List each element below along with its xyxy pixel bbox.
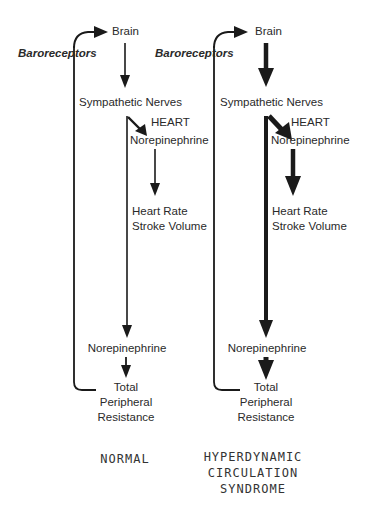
- heart-label: HEART: [291, 116, 330, 128]
- sympathetic-nerves-label: Sympathetic Nerves: [220, 96, 323, 108]
- stroke-volume-label: Stroke Volume: [132, 220, 207, 232]
- heart-label: HEART: [151, 116, 190, 128]
- hyperdynamic-caption: HYPERDYNAMIC CIRCULATION SYNDROME: [204, 449, 303, 497]
- vessel-arrowhead: [122, 325, 132, 338]
- norepinephrine-heart-label: Norepinephrine: [130, 134, 209, 146]
- tpr-line1: Total: [254, 381, 278, 393]
- brain-label: Brain: [255, 25, 282, 37]
- diagram-canvas: [0, 0, 369, 507]
- brain-label: Brain: [112, 25, 139, 37]
- norepinephrine-vessels-label: Norepinephrine: [228, 342, 307, 354]
- vessel-arrowhead: [259, 320, 273, 338]
- baroreceptor-arrowhead: [94, 26, 108, 38]
- norepinephrine-heart-label: Norepinephrine: [271, 134, 350, 146]
- hr-arrowhead: [285, 176, 301, 196]
- tpr-line1: Total: [114, 381, 138, 393]
- caption-line-3: SYNDROME: [204, 481, 303, 497]
- tpr-line2: Peripheral: [240, 396, 292, 408]
- tpr-arrowhead: [121, 365, 131, 378]
- baroreceptor-curve: [74, 32, 96, 48]
- baroreceptor-curve: [214, 32, 236, 48]
- normal-caption: NORMAL: [100, 451, 149, 467]
- baroreceptors-label: Baroreceptors: [155, 47, 234, 59]
- sympathetic-nerves-label: Sympathetic Nerves: [79, 96, 182, 108]
- brain-arrowhead: [258, 68, 274, 87]
- stroke-volume-label: Stroke Volume: [272, 220, 347, 232]
- hr-arrowhead: [150, 183, 160, 196]
- brain-arrowhead: [120, 75, 130, 88]
- heart-rate-label: Heart Rate: [132, 205, 188, 217]
- baroreceptor-arrowhead: [234, 26, 248, 38]
- tpr-line2: Peripheral: [100, 396, 152, 408]
- tpr-line3: Resistance: [98, 411, 155, 423]
- caption-line-1: HYPERDYNAMIC: [204, 449, 303, 465]
- heart-rate-label: Heart Rate: [272, 205, 328, 217]
- caption-line-2: CIRCULATION: [204, 465, 303, 481]
- baroreceptors-label: Baroreceptors: [18, 47, 97, 59]
- norepinephrine-vessels-label: Norepinephrine: [88, 342, 167, 354]
- tpr-line3: Resistance: [238, 411, 295, 423]
- tpr-arrowhead: [258, 360, 274, 380]
